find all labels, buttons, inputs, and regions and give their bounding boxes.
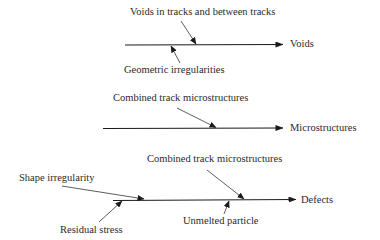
effect-label-voids: Voids bbox=[290, 38, 314, 50]
cause-arrow-combined-track-mid bbox=[177, 108, 216, 128]
cause-arrow-geometric-irregularities bbox=[171, 46, 180, 63]
cause-arrow-residual-stress bbox=[99, 201, 122, 222]
effect-label-microstructures: Microstructures bbox=[290, 122, 356, 134]
fishbone-diagram: Voids in tracks and between tracks Voids… bbox=[0, 0, 380, 240]
cause-label-shape-irregularity: Shape irregularity bbox=[19, 172, 95, 184]
cause-arrow-voids-in-tracks bbox=[181, 21, 196, 44]
branch-voids bbox=[125, 21, 283, 63]
cause-arrow-shape-irregularity bbox=[62, 186, 144, 199]
cause-label-geometric-irregularities: Geometric irregularities bbox=[124, 64, 225, 76]
cause-arrow-unmelted-particle bbox=[224, 201, 229, 214]
cause-label-residual-stress: Residual stress bbox=[60, 224, 123, 236]
cause-arrow-combined-track-bottom bbox=[207, 170, 244, 199]
branch-microstructures bbox=[103, 108, 283, 129]
cause-label-unmelted-particle: Unmelted particle bbox=[183, 215, 259, 227]
cause-label-combined-track-mid: Combined track microstructures bbox=[113, 92, 248, 104]
cause-label-voids-in-tracks: Voids in tracks and between tracks bbox=[130, 6, 275, 18]
spine-microstructures bbox=[103, 128, 283, 129]
spine-voids bbox=[125, 45, 283, 46]
cause-label-combined-track-bottom: Combined track microstructures bbox=[147, 153, 282, 165]
effect-label-defects: Defects bbox=[301, 194, 333, 206]
spine-defects bbox=[113, 200, 296, 201]
branch-defects bbox=[62, 170, 296, 222]
